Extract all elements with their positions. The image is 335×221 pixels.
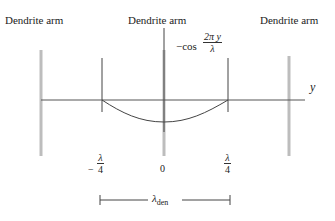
center-arm-label: Dendrite arm: [128, 14, 186, 26]
function-denominator: λ: [209, 43, 215, 54]
left-tick-denominator: 4: [97, 164, 104, 175]
function-fraction: 2π y λ: [203, 31, 222, 54]
right-tick-denominator: 4: [224, 164, 231, 175]
left-tick-fraction: λ 4: [97, 152, 104, 175]
dimension-label: λden: [152, 192, 168, 207]
left-tick-numerator: λ: [97, 152, 103, 163]
function-prefix: −cos: [176, 40, 197, 52]
axis-y-label: y: [310, 80, 315, 95]
left-tick-sign: −: [88, 164, 94, 175]
diagram-canvas: [0, 0, 335, 221]
right-arm-label: Dendrite arm: [260, 14, 318, 26]
center-tick-label: 0: [160, 163, 165, 174]
function-numerator: 2π y: [203, 31, 222, 42]
left-arm-label: Dendrite arm: [5, 14, 63, 26]
dimension-subscript: den: [157, 198, 169, 207]
right-tick-numerator: λ: [224, 152, 230, 163]
right-tick-fraction: λ 4: [224, 152, 231, 175]
